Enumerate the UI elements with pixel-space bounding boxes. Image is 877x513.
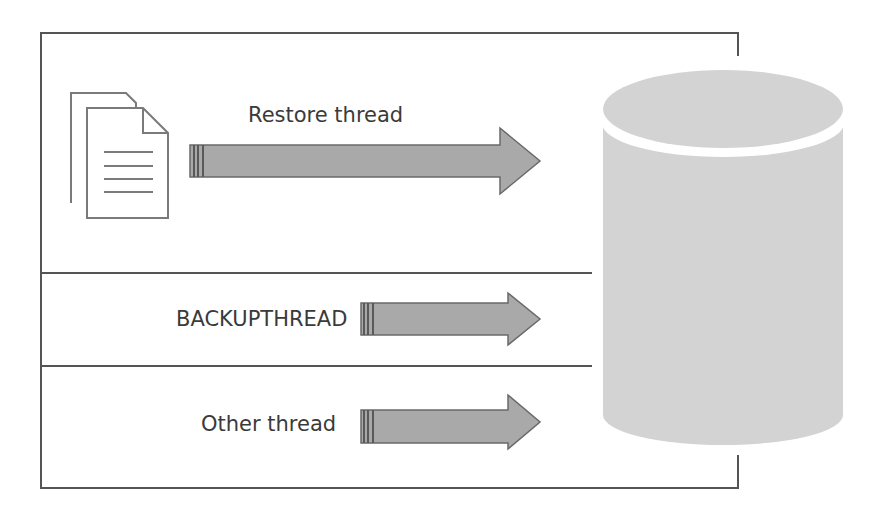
diagram-canvas xyxy=(0,0,877,513)
backup-thread-label: BACKUPTHREAD xyxy=(176,307,347,331)
database-cylinder-icon xyxy=(602,70,844,445)
other-thread-arrow xyxy=(361,395,540,449)
documents-icon xyxy=(71,93,168,218)
other-thread-label: Other thread xyxy=(201,412,336,436)
backup-thread-arrow xyxy=(361,293,540,345)
restore-thread-arrow xyxy=(190,128,540,194)
restore-thread-label: Restore thread xyxy=(248,103,403,127)
